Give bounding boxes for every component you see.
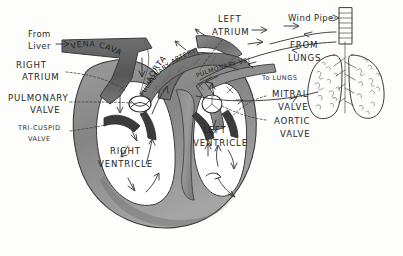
label-mitral-valve-line1: MITRAL xyxy=(272,89,308,99)
label-from-lungs-line2: LUNGS xyxy=(288,53,321,63)
label-from-lungs-line1: FROM xyxy=(290,40,318,50)
label-right-ventricle-line1: RIGHT xyxy=(110,146,141,156)
pulmonary-valve xyxy=(129,96,151,112)
label-right-atrium-line2: ATRIUM xyxy=(22,72,59,82)
label-aortic-valve-line2: VALVE xyxy=(280,129,310,139)
label-pulmonary-valve-line1: PULMONARY xyxy=(8,93,69,103)
label-tricuspid-valve-line1: TRI-CUSPID xyxy=(17,124,61,132)
label-aortic-valve-line1: AORTIC xyxy=(274,116,310,126)
wind-pipe-trachea xyxy=(339,8,352,44)
label-from-liver-line2: Liver xyxy=(28,41,51,51)
label-wind-pipe: Wind Pipe xyxy=(288,13,334,23)
label-left-atrium-line1: LEFT xyxy=(218,14,241,24)
label-left-atrium-line2: ATRIUM xyxy=(212,27,249,37)
label-mitral-valve-line2: VALVE xyxy=(278,102,308,112)
label-left-ventricle-line1: LEFT xyxy=(203,125,226,135)
label-left-ventricle-line2: VENTRICLE xyxy=(193,138,248,148)
heart-diagram-canvas: From Liver RIGHT ATRIUM PULMONARY VALVE … xyxy=(0,0,403,256)
label-from-liver-line1: From xyxy=(28,29,51,39)
label-tricuspid-valve-line2: VALVE xyxy=(28,135,51,143)
label-right-atrium-line1: RIGHT xyxy=(16,60,47,70)
label-to-lungs: To LUNGS xyxy=(261,74,297,82)
label-right-ventricle-line2: VENTRICLE xyxy=(98,159,153,169)
lung-texture xyxy=(315,59,380,114)
label-pulmonary-valve-line2: VALVE xyxy=(30,105,60,115)
heart-diagram-svg: From Liver RIGHT ATRIUM PULMONARY VALVE … xyxy=(0,0,403,256)
bronchi xyxy=(334,42,356,113)
